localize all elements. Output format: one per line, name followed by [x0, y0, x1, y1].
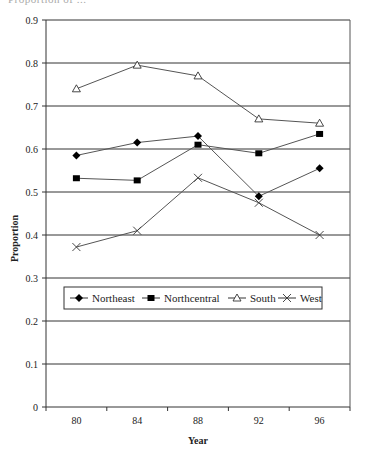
- diamond-marker: [133, 139, 141, 147]
- x-tick-label: 96: [315, 415, 325, 426]
- triangle-marker: [133, 61, 141, 68]
- line-chart: 00.10.20.30.40.50.60.70.80.98084889296Ye…: [0, 0, 366, 456]
- y-tick-label: 0.9: [26, 15, 39, 26]
- diamond-marker: [72, 151, 80, 159]
- square-marker: [73, 175, 80, 181]
- y-axis-label: Proportion: [9, 215, 20, 262]
- square-marker: [134, 177, 141, 183]
- series-line: [76, 178, 319, 247]
- y-tick-label: 0.5: [26, 187, 39, 198]
- y-tick-label: 0: [33, 402, 38, 413]
- series-south: [72, 61, 323, 126]
- y-tick-label: 0.1: [26, 359, 39, 370]
- x-tick-label: 88: [193, 415, 203, 426]
- legend-label: Northcentral: [164, 292, 220, 304]
- triangle-marker: [255, 115, 263, 122]
- x-tick-label: 84: [132, 415, 142, 426]
- square-marker: [255, 150, 262, 156]
- legend-label: West: [300, 292, 322, 304]
- square-marker: [195, 142, 202, 148]
- x-axis-label: Year: [188, 435, 209, 446]
- y-tick-label: 0.7: [26, 101, 39, 112]
- series-west: [72, 174, 323, 251]
- y-tick-label: 0.3: [26, 273, 39, 284]
- diamond-marker: [316, 164, 324, 172]
- square-marker: [316, 131, 323, 137]
- x-tick-label: 80: [71, 415, 81, 426]
- triangle-marker: [72, 85, 80, 92]
- legend-label: Northeast: [92, 292, 135, 304]
- legend-label: South: [250, 292, 276, 304]
- series-line: [76, 134, 319, 180]
- y-tick-label: 0.6: [26, 144, 39, 155]
- y-tick-label: 0.2: [26, 316, 39, 327]
- square-marker: [148, 295, 155, 301]
- x-tick-label: 92: [254, 415, 264, 426]
- y-tick-label: 0.4: [26, 230, 39, 241]
- legend: NortheastNorthcentralSouthWest: [64, 287, 322, 309]
- y-tick-label: 0.8: [26, 58, 39, 69]
